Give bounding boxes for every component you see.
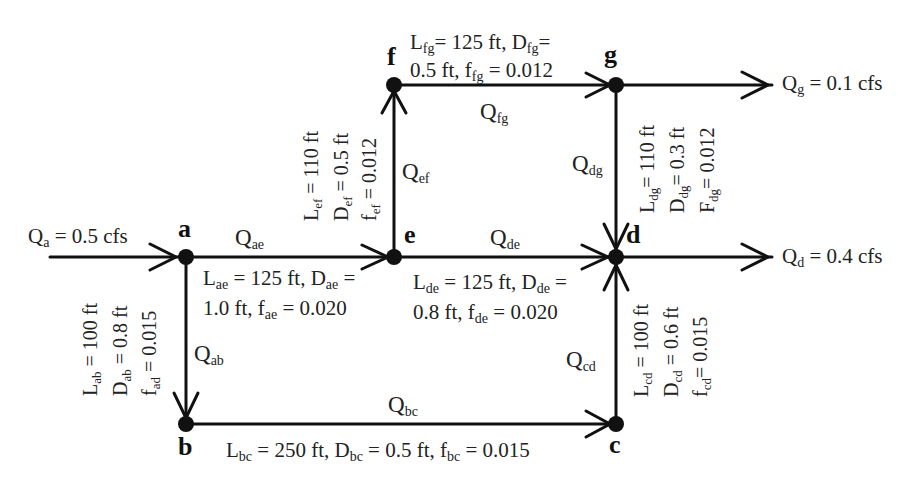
pipe-props-ef-length: Lef = 110 ft [301,131,321,221]
inflow-label-a: Qa = 0.5 cfs [28,226,128,247]
flow-label-ae: Qae [235,226,264,249]
node-label-e: e [404,222,416,248]
node-a-dot [178,249,194,265]
flow-label-bc: Qbc [388,393,418,416]
node-g-dot [608,77,624,93]
flow-label-cd: Qcd [566,348,596,371]
pipe-props-cd-diameter: Dcd = 0.6 ft [661,307,681,397]
pipe-props-ab-friction: fad = 0.015 [139,311,159,396]
node-b-dot [178,416,194,432]
node-label-a: a [178,216,191,242]
pipe-props-dg-length: Ldg= 110 ft [637,125,657,213]
node-label-g: g [604,42,617,68]
node-d-dot [608,249,624,265]
pipe-props-ef-friction: fef = 0.012 [359,138,379,221]
flow-label-ef: Qef [402,160,430,183]
pipe-props-dg-diameter: Ddg= 0.3 ft [667,127,687,213]
pipe-props-fg-line1: Lfg= 125 ft, Dfg= [410,32,550,53]
flow-label-ab: Qab [194,342,224,365]
node-label-f: f [387,44,396,70]
pipe-props-dg-friction: Fdg= 0.012 [697,128,717,213]
node-f-dot [386,77,402,93]
node-label-c: c [609,432,621,458]
pipe-props-bc: Lbc = 250 ft, Dbc = 0.5 ft, fbc = 0.015 [226,440,530,461]
pipe-props-ef-diameter: Def = 0.5 ft [331,133,351,221]
pipe-props-ae-line2: 1.0 ft, fae = 0.020 [203,298,347,319]
pipe-props-fg-line2: 0.5 ft, ffg = 0.012 [410,60,553,81]
flow-label-fg: Qfg [480,100,508,123]
node-label-b: b [178,434,192,460]
flow-label-de: Qde [490,226,520,249]
pipe-props-cd-friction: fcd= 0.015 [690,317,710,397]
pipe-props-ab-length: Lab = 100 ft [80,303,100,396]
pipe-props-de-line1: Lde = 125 ft, Dde = [413,272,567,293]
pipe-props-ae-line1: Lae = 125 ft, Dae = [203,268,355,289]
node-label-d: d [626,222,640,248]
outflow-label-g: Qg = 0.1 cfs [782,73,883,94]
flow-label-dg: Qdg [572,152,603,175]
pipe-props-ab-diameter: Dab = 0.8 ft [110,306,130,396]
node-e-dot [386,249,402,265]
pipe-props-cd-length: Lcd = 100 ft [631,304,651,397]
outflow-label-d: Qd = 0.4 cfs [782,246,883,267]
pipe-props-de-line2: 0.8 ft, fde = 0.020 [413,302,558,323]
